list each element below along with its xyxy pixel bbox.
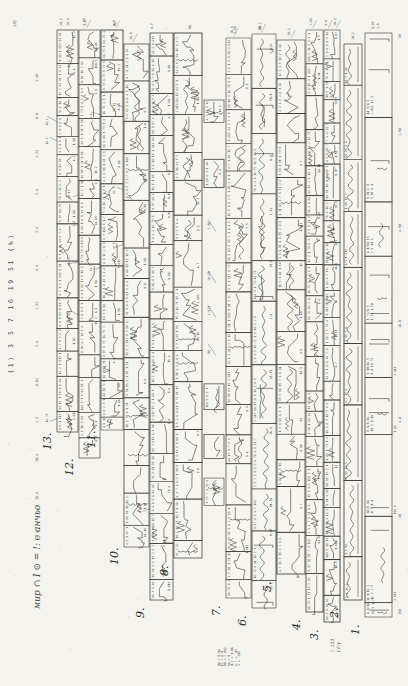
tiny-annotation: 1.613·8.5·12. [325, 292, 329, 316]
waveform-line [291, 30, 295, 38]
tiny-annotation: 1.05·4.7 18. [325, 267, 329, 289]
tiny-annotation: 18.2 [59, 18, 63, 26]
score-panel [306, 356, 323, 391]
tiny-annotation: 2.5 10.5·86 [80, 416, 84, 436]
score-panel [124, 430, 149, 466]
waveform-line [262, 24, 266, 32]
tiny-annotation: 16.5 [129, 32, 133, 40]
score-panel [306, 322, 323, 356]
strip-number-label: 12. [63, 459, 76, 477]
tiny-annotation: 2.613 [393, 592, 397, 601]
tiny-annotation: 1.40 15.2 [345, 193, 349, 209]
tiny-annotation: 1.05 [196, 97, 200, 104]
tiny-annotation: 4.5 [299, 348, 303, 354]
tiny-annotation: 1.40 [317, 212, 321, 219]
tiny-annotation: 1.66 [393, 425, 397, 432]
tiny-annotation: 1.05·1.73·1.4 [325, 437, 329, 461]
noise-speck [250, 35, 252, 37]
tiny-annotation: 84.15 1.50·1.8 44 [58, 379, 62, 410]
tiny-annotation: 4.4 7.4 8.5 1.40 0 [175, 464, 179, 497]
tiny-annotation: 12.2 1.61 [80, 180, 84, 196]
strip-number-label: 2. [328, 608, 341, 620]
strip-number-label: 1. [349, 625, 362, 636]
tiny-annotation: 10.5 [269, 260, 273, 268]
tiny-annotation: 16.3 1.40· [151, 580, 155, 598]
noise-speck [396, 355, 397, 356]
score-panel [226, 464, 251, 505]
tiny-annotation: 2.8 [196, 468, 200, 474]
score-panel [306, 437, 323, 467]
tiny-annotation: 2.613 [72, 411, 76, 420]
tiny-annotation: 1.31 1.50 [371, 303, 375, 320]
tiny-annotation: 1.73·7.4·78.4 [205, 480, 209, 504]
score-panel [306, 96, 323, 130]
tiny-annotation: 1.05 1.8 1.40 8.8 [80, 202, 84, 233]
tiny-annotation: 6.4 [167, 388, 171, 394]
tiny-annotation: 78.4 96.15 8.8 2.8 96.1 [227, 508, 231, 550]
tiny-annotation: 16.2 [35, 492, 39, 500]
tiny-annotation: 8.5·2.5·4.4· [175, 217, 179, 239]
tiny-annotation: 16.3·8.96 [102, 304, 106, 320]
tiny-annotation: 18.2 [45, 118, 49, 125]
tiny-annotation: 4.5·86·1.31 12 [227, 552, 231, 577]
tiny-annotation: 2.8·16.3 1.613· [307, 66, 311, 93]
tiny-annotation: 12.2 4.5·18.2·1.40· [278, 42, 282, 77]
noise-speck [166, 28, 168, 30]
score-panel [324, 221, 340, 243]
tiny-annotation: 1.31 15.2·1.50 1.31 [125, 361, 129, 396]
tiny-annotation: 0.81 [35, 378, 39, 386]
strip-number-label: 8. [158, 566, 171, 577]
tiny-annotation: 44.5 [89, 264, 93, 271]
noise-speck [10, 51, 11, 52]
tiny-annotation: 4.7 [167, 113, 171, 119]
tiny-annotation: 8.5·1.613· [58, 412, 62, 430]
tiny-annotation: 10.5·1.40 1.50 [278, 262, 282, 287]
tiny-annotation: 2.613 15.2 1.66 1. [151, 387, 155, 420]
tiny-annotation: 2.613 13.5 [371, 96, 375, 115]
tiny-annotation: 1.5 [376, 23, 380, 29]
noise-speck [281, 676, 282, 677]
tiny-annotation: 1.66 96.15 15.2 [125, 249, 129, 276]
tiny-annotation: 6.4 [94, 308, 98, 314]
noise-speck [64, 592, 65, 593]
tiny-annotation: 16.75·12.2·8. [307, 296, 311, 320]
tiny-annotation: 12.2 1.613·1 [58, 352, 62, 374]
noise-speck [65, 567, 66, 568]
tiny-annotation: 16.5 6.3 10.5 8.5 [325, 403, 329, 434]
score-panel [252, 34, 276, 88]
tiny-annotation: 16.75 [45, 413, 49, 422]
waveform-line [337, 20, 341, 28]
tiny-annotation: 12.2 12. [175, 541, 179, 556]
tiny-annotation: 6.4 [245, 451, 249, 457]
tiny-annotation: 1.50 [94, 280, 98, 287]
tiny-annotation: 2.613 [196, 294, 200, 303]
tiny-annotation: 96.15 [196, 332, 200, 341]
tiny-annotation: 8.5·13.5·8.8·4.5 16. [125, 83, 129, 119]
waveform-line [313, 20, 317, 28]
tiny-annotation: 4.4·96.15·1.613·16 [151, 137, 155, 170]
tiny-annotation: 16.75·1.66·78.4 [102, 31, 106, 58]
noise-speck [106, 551, 107, 552]
tiny-annotation: 12.2 [196, 198, 200, 205]
strip-number-label: 10. [108, 548, 121, 566]
tiny-annotation: 166.5·1.5·84.15 1 [80, 380, 84, 411]
tiny-annotation: 78.4·44.5·2. [58, 178, 62, 200]
tiny-annotation: 16.75 2.5 1. [102, 93, 106, 115]
tiny-annotation: 15.2 [167, 355, 171, 362]
tiny-annotation: 6.3 [218, 169, 222, 175]
tiny-annotation: 1.613 [299, 223, 303, 232]
tiny-annotation: 6.3·4.5 2.8·1.66· [278, 81, 282, 112]
tiny-annotation: 2.613 [117, 259, 121, 268]
tiny-annotation: 1.8 [143, 123, 147, 129]
strip1-note-line: t.t′/γ [336, 641, 341, 652]
tiny-annotation: 4.7 6.3·2.6 [58, 329, 62, 349]
tiny-annotation: 4.7 4.4 [371, 500, 375, 513]
tiny-annotation: 166.5·44.5 6.4·1 [307, 33, 311, 62]
tiny-annotation: 1.5 8.96·8.5 1. [278, 405, 282, 432]
tiny-annotation: 2.613 [393, 366, 397, 375]
strip1-note-line: !. 123 [330, 639, 335, 652]
tiny-annotation: 14) [12, 20, 17, 27]
tiny-annotation: 1.40·6.3 86 2 [151, 266, 155, 290]
tiny-annotation: 16.75 [67, 257, 71, 266]
tiny-annotation: 1.40·1.50·44 [307, 413, 311, 435]
